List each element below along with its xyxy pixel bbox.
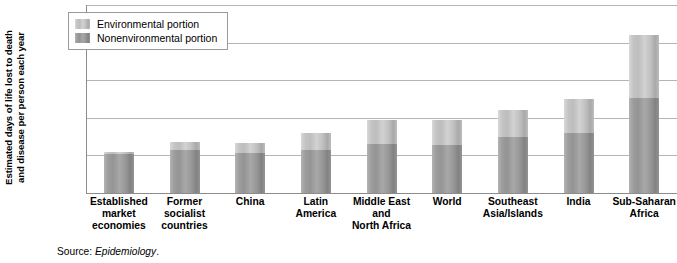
x-axis-category-label-line: countries: [152, 220, 218, 232]
legend-item-label: Environmental portion: [97, 18, 199, 30]
gridline: [86, 80, 677, 81]
bar-segment-environmental[interactable]: [432, 120, 462, 145]
bar-group[interactable]: [432, 120, 462, 193]
x-axis-category-label: Middle EastandNorth Africa: [349, 196, 415, 233]
nonenvironmental-swatch: [75, 33, 90, 43]
bar-segment-nonenvironmental[interactable]: [301, 150, 331, 193]
bar-group[interactable]: [498, 110, 528, 193]
bar-segment-nonenvironmental[interactable]: [629, 98, 659, 194]
bar-segment-nonenvironmental[interactable]: [235, 153, 265, 193]
bar-group[interactable]: [367, 120, 397, 193]
source-prefix: Source:: [57, 246, 95, 257]
x-axis-category-label: SoutheastAsia/Islands: [480, 196, 546, 220]
x-axis-line: [86, 193, 677, 194]
bar-group[interactable]: [170, 142, 200, 193]
x-axis-category-label-line: China: [217, 196, 283, 208]
environmental-swatch: [75, 19, 90, 29]
bar-group[interactable]: [629, 35, 659, 193]
bar-segment-environmental[interactable]: [367, 120, 397, 144]
legend-item[interactable]: Nonenvironmental portion: [75, 31, 217, 45]
source-publication: Epidemiology: [95, 246, 156, 257]
x-axis-category-label: Establishedmarketeconomies: [86, 196, 152, 233]
chart-legend: Environmental portionNonenvironmental po…: [68, 12, 228, 50]
x-axis-category-label-line: Former: [152, 196, 218, 208]
bar-group[interactable]: [301, 133, 331, 193]
x-axis-category-label-line: India: [546, 196, 612, 208]
x-axis-category-label-line: Southeast: [480, 196, 546, 208]
bar-segment-environmental[interactable]: [629, 35, 659, 97]
bar-segment-environmental[interactable]: [170, 142, 200, 150]
x-axis-category-label-line: Middle East: [349, 196, 415, 208]
bar-segment-environmental[interactable]: [235, 143, 265, 154]
bar-segment-nonenvironmental[interactable]: [498, 137, 528, 193]
x-axis-category-label-line: Sub-Saharan: [611, 196, 677, 208]
x-axis-category-label-line: Latin: [283, 196, 349, 208]
bar-segment-environmental[interactable]: [564, 99, 594, 133]
bar-segment-nonenvironmental[interactable]: [367, 144, 397, 193]
x-axis-category-label-line: World: [414, 196, 480, 208]
y-axis-title: Estimated days of life lost to death and…: [3, 8, 26, 208]
bar-segment-nonenvironmental[interactable]: [564, 133, 594, 193]
bar-group[interactable]: [564, 99, 594, 193]
bar-segment-nonenvironmental[interactable]: [432, 145, 462, 193]
bar-segment-environmental[interactable]: [301, 133, 331, 150]
gridline: [86, 5, 677, 6]
bar-segment-environmental[interactable]: [498, 110, 528, 137]
legend-item[interactable]: Environmental portion: [75, 17, 217, 31]
x-axis-category-label-line: socialist: [152, 208, 218, 220]
bar-group[interactable]: [235, 143, 265, 193]
x-axis-category-label: India: [546, 196, 612, 208]
y-axis-title-line-1: Estimated days of life lost to death: [3, 8, 15, 208]
x-axis-category-label: LatinAmerica: [283, 196, 349, 220]
x-axis-category-label-line: Africa: [611, 208, 677, 220]
x-axis-category-label-line: North Africa: [349, 220, 415, 232]
bar-group[interactable]: [104, 152, 134, 193]
x-axis-category-label: Formersocialistcountries: [152, 196, 218, 233]
x-axis-category-label-line: America: [283, 208, 349, 220]
source-suffix: .: [156, 246, 159, 257]
x-axis-category-label: Sub-SaharanAfrica: [611, 196, 677, 220]
x-axis-category-label-line: Asia/Islands: [480, 208, 546, 220]
bar-segment-nonenvironmental[interactable]: [104, 154, 134, 193]
x-axis-category-labels: EstablishedmarketeconomiesFormersocialis…: [86, 196, 677, 240]
y-axis-title-line-2: and disease per person each year: [14, 8, 26, 208]
x-axis-category-label-line: economies: [86, 220, 152, 232]
x-axis-category-label-line: Established: [86, 196, 152, 208]
x-axis-category-label-line: and: [349, 208, 415, 220]
bar-segment-nonenvironmental[interactable]: [170, 150, 200, 193]
legend-item-label: Nonenvironmental portion: [97, 32, 217, 44]
source-note: Source: Epidemiology.: [57, 246, 159, 257]
x-axis-category-label-line: market: [86, 208, 152, 220]
x-axis-category-label: China: [217, 196, 283, 208]
x-axis-category-label: World: [414, 196, 480, 208]
